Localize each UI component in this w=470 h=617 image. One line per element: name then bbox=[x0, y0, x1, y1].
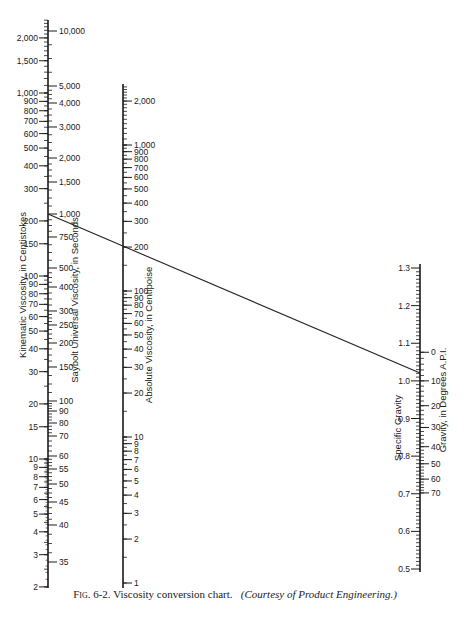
saybolt-axis-title: Saybolt Universal Viscosity, in Seconds bbox=[69, 217, 80, 383]
svg-text:100: 100 bbox=[59, 396, 73, 406]
svg-text:2,000: 2,000 bbox=[59, 153, 81, 163]
svg-text:800: 800 bbox=[24, 106, 38, 116]
specific-gravity-scale: 1.31.21.11.00.90.80.70.60.50102030405060… bbox=[398, 263, 441, 574]
svg-text:55: 55 bbox=[59, 464, 69, 474]
svg-text:5: 5 bbox=[134, 476, 139, 486]
svg-text:5: 5 bbox=[33, 509, 38, 519]
svg-text:600: 600 bbox=[134, 172, 148, 182]
svg-text:50: 50 bbox=[431, 459, 441, 469]
svg-text:1.2: 1.2 bbox=[398, 301, 410, 311]
svg-text:70: 70 bbox=[431, 488, 441, 498]
svg-text:7: 7 bbox=[134, 455, 139, 465]
nomogram: 2,0001,5001,0009008007006005004003002001… bbox=[0, 0, 470, 617]
kinematic-axis-title: Kinematic Viscosity, in Centistokes bbox=[17, 212, 28, 358]
svg-text:2,000: 2,000 bbox=[134, 96, 156, 106]
svg-text:70: 70 bbox=[29, 299, 39, 309]
svg-text:90: 90 bbox=[59, 406, 69, 416]
svg-text:0.7: 0.7 bbox=[398, 489, 410, 499]
svg-text:400: 400 bbox=[134, 198, 148, 208]
svg-text:300: 300 bbox=[134, 216, 148, 226]
svg-text:0: 0 bbox=[431, 347, 436, 357]
caption-text: Viscosity conversion chart. bbox=[113, 588, 232, 600]
svg-text:700: 700 bbox=[134, 163, 148, 173]
svg-text:50: 50 bbox=[29, 326, 39, 336]
svg-text:3: 3 bbox=[33, 550, 38, 560]
svg-text:6: 6 bbox=[134, 464, 139, 474]
svg-text:200: 200 bbox=[134, 242, 148, 252]
figure-number: Fig. 6-2. bbox=[73, 588, 110, 600]
svg-text:4: 4 bbox=[134, 490, 139, 500]
svg-text:700: 700 bbox=[24, 116, 38, 126]
svg-text:1.0: 1.0 bbox=[398, 376, 410, 386]
svg-text:50: 50 bbox=[59, 479, 69, 489]
svg-text:4,000: 4,000 bbox=[59, 98, 81, 108]
svg-text:80: 80 bbox=[59, 418, 69, 428]
svg-text:600: 600 bbox=[24, 129, 38, 139]
svg-text:45: 45 bbox=[59, 497, 69, 507]
svg-text:8: 8 bbox=[33, 472, 38, 482]
svg-text:300: 300 bbox=[24, 184, 38, 194]
caption-credit: (Courtesy of Product Engineering.) bbox=[241, 588, 397, 600]
svg-text:60: 60 bbox=[29, 312, 39, 322]
svg-text:60: 60 bbox=[431, 474, 441, 484]
figure-caption: Fig. 6-2. Viscosity conversion chart. (C… bbox=[0, 588, 470, 600]
svg-text:7: 7 bbox=[33, 482, 38, 492]
svg-text:2: 2 bbox=[134, 534, 139, 544]
svg-text:6: 6 bbox=[33, 495, 38, 505]
svg-text:35: 35 bbox=[59, 557, 69, 567]
svg-text:60: 60 bbox=[59, 451, 69, 461]
svg-text:1: 1 bbox=[134, 578, 139, 588]
svg-text:1,500: 1,500 bbox=[59, 177, 81, 187]
svg-text:3: 3 bbox=[134, 508, 139, 518]
svg-text:5,000: 5,000 bbox=[59, 81, 81, 91]
svg-text:1,500: 1,500 bbox=[17, 56, 39, 66]
svg-text:1.1: 1.1 bbox=[398, 338, 410, 348]
svg-text:40: 40 bbox=[29, 344, 39, 354]
svg-text:400: 400 bbox=[24, 161, 38, 171]
svg-text:1.3: 1.3 bbox=[398, 263, 410, 273]
example-isopleth-line bbox=[48, 214, 420, 373]
absolute-axis-title: Absolute Viscosity, in Centipoise bbox=[143, 267, 154, 403]
svg-text:500: 500 bbox=[134, 184, 148, 194]
svg-text:10,000: 10,000 bbox=[59, 26, 85, 36]
svg-text:4: 4 bbox=[33, 527, 38, 537]
svg-text:0.5: 0.5 bbox=[398, 564, 410, 574]
svg-text:2,000: 2,000 bbox=[17, 33, 39, 43]
svg-text:15: 15 bbox=[29, 422, 39, 432]
svg-text:20: 20 bbox=[29, 399, 39, 409]
svg-text:3,000: 3,000 bbox=[59, 122, 81, 132]
svg-text:30: 30 bbox=[29, 367, 39, 377]
svg-text:80: 80 bbox=[29, 289, 39, 299]
svg-text:40: 40 bbox=[59, 520, 69, 530]
api-axis-title: Gravity, in Degrees A.P.I. bbox=[437, 348, 448, 453]
specific-gravity-axis-title: Specific Gravity bbox=[392, 395, 403, 461]
svg-text:0.6: 0.6 bbox=[398, 526, 410, 536]
svg-text:500: 500 bbox=[24, 143, 38, 153]
svg-text:70: 70 bbox=[59, 431, 69, 441]
